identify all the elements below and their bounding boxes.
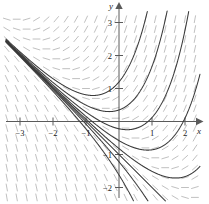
solution-curve-0 [6,12,147,96]
x-tick-label-3: 1 [150,128,154,138]
y-axis-label: y [108,1,113,11]
plot-canvas: −3−2−112321−1−2 x y [0,0,209,204]
y-axis-arrowhead [115,2,122,9]
x-axis-arrowhead [196,118,204,125]
axis-tick-labels: −3−2−112321−1−2 [15,18,187,193]
y-tick-label-3: −1 [103,150,112,160]
slope-field-figure: −3−2−112321−1−2 x y [0,0,209,204]
x-tick-label-4: 2 [183,128,187,138]
y-tick-label-2: 1 [108,84,112,94]
y-tick-label-1: 2 [108,51,112,61]
y-tick-label-0: 3 [108,18,112,28]
y-tick-label-4: −2 [103,183,112,193]
x-tick-label-0: −3 [15,128,24,138]
x-tick-label-2: −1 [81,128,90,138]
slope-field [3,16,198,201]
x-tick-label-1: −2 [48,128,57,138]
x-axis-label: x [196,126,201,136]
